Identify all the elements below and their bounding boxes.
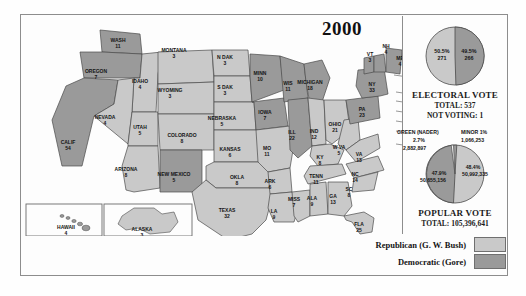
state-votes-va: 13 — [356, 157, 362, 163]
hawaii-island — [60, 215, 64, 218]
legend-row-democratic: Democratic (Gore) — [250, 253, 506, 270]
state-minn[interactable] — [250, 54, 284, 102]
state-votes-hawaii: 4 — [65, 230, 68, 236]
legend-label-republican: Republican (G. W. Bush) — [376, 240, 466, 250]
state-votes-ala: 9 — [311, 201, 314, 207]
stats-panel: 50.5% 271 49.5% 266 ELECTORAL VOTE TOTAL… — [402, 16, 506, 234]
legend-swatch-republican — [474, 237, 506, 252]
state-votes-nh: 4 — [385, 49, 388, 55]
state-votes-nevada: 4 — [104, 120, 107, 126]
state-votes-montana: 3 — [173, 53, 176, 59]
state-votes-sc: 8 — [348, 192, 351, 198]
electoral-rep-votes: 271 — [438, 55, 447, 61]
state-votes-texas: 32 — [224, 213, 230, 219]
state-votes-wva: 5 — [338, 150, 341, 156]
state-votes-minn: 10 — [257, 76, 263, 82]
minor-label: MINOR 1% — [461, 129, 487, 135]
state-votes-alaska: 3 — [141, 232, 144, 236]
electoral-rep-pct: 50.5% — [434, 48, 449, 54]
hawaii-island — [72, 219, 76, 222]
state-votes-ind: 12 — [311, 134, 317, 140]
electoral-vote-total: TOTAL: 537 — [403, 101, 507, 110]
electoral-vote-title: ELECTORAL VOTE — [403, 90, 507, 100]
state-votes-la: 9 — [273, 214, 276, 220]
state-votes-calif: 54 — [65, 145, 71, 151]
state-votes-wis: 11 — [285, 86, 291, 92]
state-votes-newmex: 5 — [173, 177, 176, 183]
popular-vote-total: TOTAL: 105,396,641 — [403, 219, 507, 228]
state-votes-ny: 33 — [369, 87, 375, 93]
hawaii-island — [77, 222, 82, 226]
hawaii-island — [66, 217, 70, 220]
state-votes-wash: 11 — [115, 43, 121, 49]
state-votes-fla: 25 — [356, 227, 362, 233]
legend: Republican (G. W. Bush) Democratic (Gore… — [250, 236, 506, 276]
state-votes-okla: 8 — [236, 180, 239, 186]
electoral-dem-pct: 49.5% — [461, 48, 476, 54]
state-votes-pa: 23 — [359, 112, 365, 118]
state-montana[interactable] — [158, 50, 214, 84]
state-votes-michigan: 18 — [307, 85, 313, 91]
popular-dem-votes: 50,655,156 — [420, 177, 446, 183]
electoral-vote-notvoting: NOT VOTING: 1 — [403, 111, 507, 120]
popular-dem-pct: 47.9% — [432, 170, 447, 176]
state-votes-tenn: 11 — [313, 179, 319, 185]
state-votes-sdak: 3 — [224, 90, 227, 96]
legend-swatch-democratic — [474, 254, 506, 269]
state-votes-utah: 5 — [139, 130, 142, 136]
electoral-dem-votes: 266 — [465, 55, 474, 61]
state-votes-iowa: 7 — [264, 115, 267, 121]
state-votes-ill: 22 — [289, 135, 295, 141]
election-map-figure: 2000 WASH11OREGON7CALIF54IDAHO4NEVADA4UT… — [0, 0, 526, 296]
state-votes-nebraska: 5 — [221, 121, 224, 127]
state-votes-mo: 11 — [264, 151, 270, 157]
us-map-svg: WASH11OREGON7CALIF54IDAHO4NEVADA4UTAH5AR… — [22, 16, 402, 236]
state-votes-ndak: 3 — [224, 60, 227, 66]
state-votes-oregon: 7 — [95, 74, 98, 80]
legend-label-democratic: Democratic (Gore) — [398, 257, 466, 267]
state-votes-ohio: 21 — [332, 127, 338, 133]
state-votes-ga: 13 — [330, 199, 336, 205]
state-votes-nc: 14 — [352, 177, 358, 183]
state-votes-vt: 3 — [369, 57, 372, 63]
green-nader-label: GREEN (NADER) — [397, 129, 439, 135]
callout-line-mass — [394, 75, 402, 77]
state-votes-ark: 6 — [269, 184, 272, 190]
state-votes-kansas: 6 — [229, 152, 232, 158]
state-nh[interactable] — [374, 54, 386, 72]
state-votes-arizona: 8 — [125, 172, 128, 178]
popular-rep-votes: 50,992,335 — [462, 171, 488, 177]
electoral-vote-pie: 50.5% 271 49.5% 266 — [403, 18, 507, 98]
us-map-container: WASH11OREGON7CALIF54IDAHO4NEVADA4UTAH5AR… — [22, 16, 402, 236]
popular-rep-pct: 48.4% — [466, 164, 481, 170]
state-votes-ky: 8 — [319, 160, 322, 166]
state-votes-colorado: 8 — [181, 138, 184, 144]
state-votes-idaho: 4 — [139, 84, 142, 90]
state-votes-wyoming: 3 — [169, 93, 172, 99]
state-oregon[interactable] — [80, 52, 142, 78]
hawaii-island — [82, 225, 90, 231]
popular-vote-pie: 47.9% 50,655,156 48.4% 50,992,335 — [403, 142, 507, 210]
legend-row-republican: Republican (G. W. Bush) — [250, 236, 506, 253]
popular-vote-title: POPULAR VOTE — [403, 208, 507, 218]
state-votes-miss: 7 — [293, 202, 296, 208]
